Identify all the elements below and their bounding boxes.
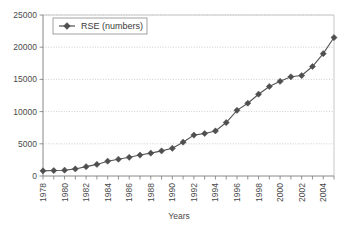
data-point-marker [83,164,89,170]
x-tick-label: 1988 [146,183,156,202]
plot-frame [43,15,334,176]
legend-entry-label: RSE (numbers) [81,21,143,31]
y-tick-label: 10000 [13,107,37,117]
x-tick-label: 2002 [297,183,307,202]
x-axis-tick-labels: 1978198019821984198619881990199219941996… [38,183,328,202]
x-tick-label: 1984 [103,183,113,202]
line-chart: 0500010000150002000025000 19781980198219… [0,0,349,229]
x-tick-label: 1998 [254,183,264,202]
data-point-marker [51,167,57,173]
y-tick-label: 0 [32,171,37,181]
data-point-marker [105,158,111,164]
data-point-marker [40,168,46,174]
y-axis-ticks [40,15,44,176]
data-point-marker [126,154,132,160]
y-tick-label: 25000 [13,10,37,20]
data-point-marker [180,139,186,145]
data-point-marker [72,166,78,172]
data-point-marker [288,74,294,80]
x-tick-label: 2000 [275,183,285,202]
series-line [43,38,334,171]
y-tick-label: 20000 [13,42,37,52]
data-point-marker [137,152,143,158]
x-tick-label: 1994 [210,183,220,202]
x-tick-label: 1996 [232,183,242,202]
chart-container: 0500010000150002000025000 19781980198219… [0,0,349,229]
x-axis-title: Years [168,211,189,221]
data-point-marker [94,161,100,167]
data-point-marker [115,156,121,162]
y-tick-label: 15000 [13,74,37,84]
data-series [40,34,337,174]
x-tick-label: 1990 [167,183,177,202]
x-tick-label: 1980 [60,183,70,202]
x-tick-label: 1978 [38,183,48,202]
data-point-marker [169,145,175,151]
y-axis-tick-labels: 0500010000150002000025000 [13,10,37,181]
data-point-marker [191,132,197,138]
data-point-marker [331,34,337,40]
x-tick-label: 1982 [81,183,91,202]
data-point-marker [148,150,154,156]
data-point-marker [202,130,208,136]
x-tick-label: 1992 [189,183,199,202]
chart-legend: RSE (numbers) [53,18,147,34]
x-axis-ticks [43,176,334,180]
data-point-marker [61,167,67,173]
x-tick-label: 2004 [318,183,328,202]
y-tick-label: 5000 [18,139,37,149]
data-point-marker [158,148,164,154]
x-tick-label: 1986 [124,183,134,202]
